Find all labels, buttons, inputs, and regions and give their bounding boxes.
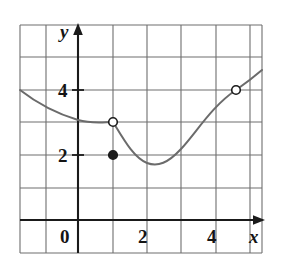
y-tick-label-2: 2	[58, 146, 68, 165]
closed-point-right-branch	[109, 151, 118, 160]
y-tick-label-4: 4	[58, 81, 68, 100]
x-tick-label-2: 2	[138, 227, 148, 246]
open-point-upper-right	[232, 86, 241, 95]
open-point-left-branch	[109, 118, 118, 127]
x-axis	[20, 215, 265, 225]
plot-canvas	[0, 0, 283, 261]
x-tick-label-4: 4	[207, 227, 217, 246]
graph-figure: 4 2 0 2 4 y x	[0, 0, 283, 261]
x-axis-name: x	[249, 227, 259, 246]
x-tick-label-0: 0	[60, 227, 70, 246]
grid-vertical-lines	[20, 25, 262, 253]
x-axis-arrowhead	[253, 215, 265, 225]
y-axis-name: y	[60, 22, 68, 41]
grid-horizontal-lines	[20, 25, 262, 253]
curve-right-branch	[113, 70, 262, 164]
